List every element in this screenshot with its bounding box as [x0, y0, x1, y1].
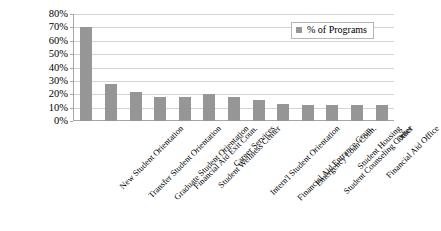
- bar: [253, 100, 265, 121]
- y-axis-tick-label: 0%: [54, 116, 68, 127]
- y-axis: 80% 70% 60% 50% 40% 30% 20% 10% 0%: [0, 0, 73, 125]
- y-axis-tick-label: 60%: [49, 36, 68, 47]
- bar-slot: [148, 14, 173, 121]
- x-axis-label: New Student Orientation: [118, 124, 185, 191]
- bar: [80, 27, 92, 121]
- bar-slot: [172, 14, 197, 121]
- bar: [351, 105, 363, 121]
- bar: [376, 105, 388, 121]
- bar-slot: [123, 14, 148, 121]
- legend-label: % of Programs: [307, 25, 367, 35]
- bar: [179, 97, 191, 121]
- bar: [277, 104, 289, 121]
- y-axis-tick: [70, 121, 73, 122]
- y-axis-tick-label: 40%: [49, 62, 68, 73]
- bar: [326, 105, 338, 121]
- y-axis-tick-label: 10%: [49, 102, 68, 113]
- y-axis-tick-label: 80%: [49, 9, 68, 20]
- bar-slot: [246, 14, 271, 121]
- y-axis-tick-label: 30%: [49, 76, 68, 87]
- bar: [302, 105, 314, 121]
- bar: [228, 97, 240, 121]
- bar-slot: [222, 14, 247, 121]
- bar: [203, 94, 215, 121]
- y-axis-tick-label: 20%: [49, 89, 68, 100]
- x-axis: New Student OrientationTransfer Student …: [74, 122, 394, 227]
- bar-slot: [74, 14, 99, 121]
- bar-slot: [197, 14, 222, 121]
- chart-legend: % of Programs: [291, 22, 374, 39]
- bar: [130, 92, 142, 121]
- bar-slot: [99, 14, 124, 121]
- bar: [105, 84, 117, 121]
- y-axis-tick-label: 50%: [49, 49, 68, 60]
- legend-swatch-icon: [296, 27, 302, 33]
- y-axis-tick-label: 70%: [49, 22, 68, 33]
- bar: [154, 97, 166, 121]
